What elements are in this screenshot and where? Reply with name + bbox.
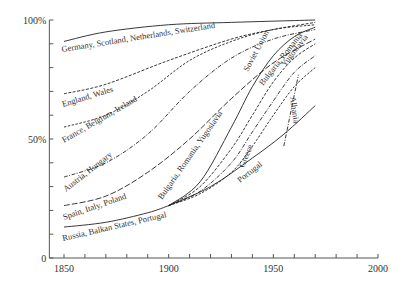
x-tick-label: 1850: [54, 263, 74, 274]
x-tick-label: 1950: [263, 263, 283, 274]
curve-label-england-wales: England, Wales: [61, 84, 115, 109]
x-tick-label: 1900: [159, 263, 179, 274]
curve-label-spain-italy-poland: Spain, Italy, Poland: [61, 191, 128, 222]
urbanization-chart: 050%100%1850190019502000 Germany, Scotla…: [0, 0, 403, 286]
y-tick-label: 50%: [28, 134, 46, 145]
y-tick-label: 0: [41, 253, 46, 264]
curve-label-albania: Albania: [288, 96, 302, 124]
y-tick-label: 100%: [23, 15, 46, 26]
curve-label-bulgaria-romania-yugoslavia: Bulgaria, Romania, Yugoslavia: [155, 108, 224, 201]
curve-label-austria-hungary: Austria, Hungary: [61, 149, 114, 194]
curve-labels: Germany, Scotland, Netherlands, Switzerl…: [60, 20, 310, 243]
x-tick-label: 2000: [368, 263, 388, 274]
curve-greece: [169, 68, 316, 206]
